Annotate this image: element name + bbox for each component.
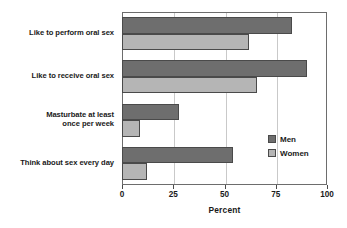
x-tick-label-25: 25: [158, 190, 188, 199]
legend-label: Women: [280, 149, 309, 158]
category-label: Like to receive oral sex: [0, 71, 114, 81]
category-label: Masturbate at leastonce per week: [0, 110, 114, 129]
category-label: Think about sex every day: [0, 158, 114, 168]
x-tick-75: [276, 185, 277, 189]
category-label-line: Like to perform oral sex: [0, 28, 114, 38]
category-label-line: Like to receive oral sex: [0, 71, 114, 81]
legend-item-women: Women: [268, 147, 309, 159]
bar-women-0: [122, 34, 249, 51]
x-tick-100: [327, 185, 328, 189]
x-tick-label-50: 50: [210, 190, 240, 199]
legend-label: Men: [280, 135, 296, 144]
bar-chart-figure: Like to perform oral sexLike to receive …: [0, 0, 347, 228]
category-label: Like to perform oral sex: [0, 28, 114, 38]
bar-women-2: [122, 120, 140, 137]
x-tick-50: [225, 185, 226, 189]
bar-women-1: [122, 77, 257, 94]
category-axis-labels: Like to perform oral sexLike to receive …: [0, 12, 118, 185]
x-axis-title: Percent: [122, 205, 327, 215]
x-tick-label-0: 0: [107, 190, 137, 199]
x-tick-25: [173, 185, 174, 189]
x-tick-0: [122, 185, 123, 189]
bar-men-2: [122, 104, 179, 121]
bar-men-0: [122, 17, 292, 34]
bar-men-1: [122, 60, 307, 77]
chart-legend: MenWomen: [268, 133, 309, 161]
bar-women-3: [122, 163, 147, 180]
category-label-line: Think about sex every day: [0, 158, 114, 168]
x-tick-label-100: 100: [312, 190, 342, 199]
legend-item-men: Men: [268, 133, 309, 145]
category-label-line: Masturbate at least: [0, 110, 114, 120]
legend-swatch-men: [268, 135, 276, 143]
category-label-line: once per week: [0, 119, 114, 129]
x-tick-label-75: 75: [261, 190, 291, 199]
legend-swatch-women: [268, 149, 276, 157]
bar-men-3: [122, 147, 233, 164]
